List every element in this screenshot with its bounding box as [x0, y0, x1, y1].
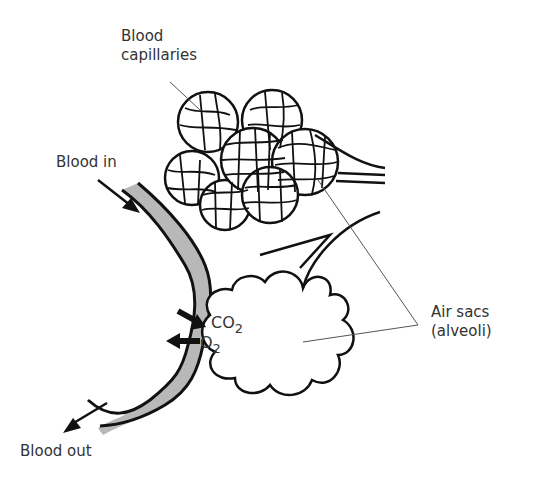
co2-label-base: CO [211, 313, 235, 332]
o2-label-base: O [200, 333, 213, 352]
capillaries-label-line2: capillaries [121, 46, 197, 65]
capillaries-label-line1: Blood [121, 27, 197, 46]
air-sacs-label: Air sacs (alveoli) [431, 303, 492, 341]
co2-label-subscript: 2 [235, 321, 243, 336]
o2-label-subscript: 2 [213, 341, 221, 356]
alveoli-gas-exchange-diagram: Blood capillaries Blood in Blood out CO2… [0, 0, 538, 478]
o2-label: O2 [200, 333, 221, 358]
air-sacs-label-line2: (alveoli) [431, 322, 492, 341]
blood-in-label: Blood in [56, 153, 117, 172]
capillaries-label: Blood capillaries [121, 27, 197, 65]
blood-out-label: Blood out [20, 442, 92, 461]
blood-vessel [88, 183, 211, 435]
capillary-network [165, 90, 385, 230]
air-sacs-label-line1: Air sacs [431, 303, 492, 322]
